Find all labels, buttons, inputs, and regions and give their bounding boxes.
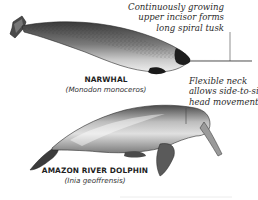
dolphin-callout-line-3: head movement	[189, 97, 258, 107]
narwhal-common-name: NARWHAL	[64, 75, 148, 84]
narwhal-callout-line-2: upper incisor forms	[128, 12, 224, 22]
dolphin-rostrum	[200, 122, 222, 156]
narwhal-callout: Continuously growing upper incisor forms…	[128, 2, 224, 33]
narwhal-label: NARWHAL (Monodon monoceros)	[64, 75, 148, 94]
narwhal-callout-line-1: Continuously growing	[128, 2, 224, 12]
dolphin-common-name: AMAZON RIVER DOLPHIN	[38, 166, 152, 175]
narwhal-callout-line-3: long spiral tusk	[128, 23, 224, 33]
dolphin-label: AMAZON RIVER DOLPHIN (Inia geoffrensis)	[38, 166, 152, 185]
dolphin-callout: Flexible neck allows side-to-side head m…	[189, 76, 258, 107]
narwhal-head	[175, 48, 191, 65]
dolphin-callout-line-1: Flexible neck	[189, 76, 258, 86]
narwhal-scientific-name: (Monodon monoceros)	[64, 85, 148, 94]
dolphin-callout-line-2: allows side-to-side	[189, 86, 258, 96]
dolphin-scientific-name: (Inia geoffrensis)	[38, 176, 152, 185]
dolphin-pectoral-flipper	[157, 144, 175, 177]
